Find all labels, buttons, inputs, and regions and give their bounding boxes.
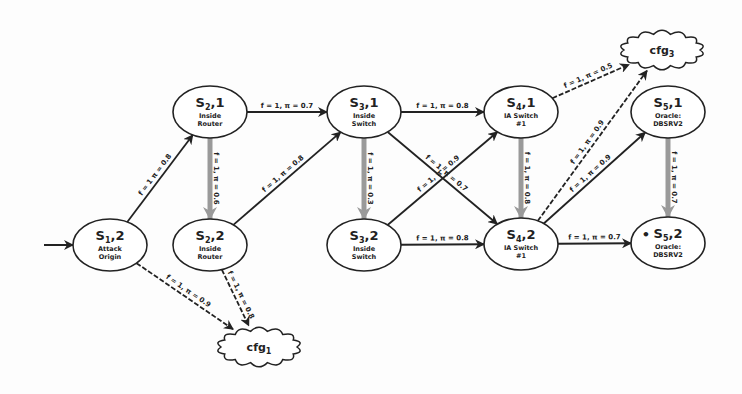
state-node-s3-1[interactable]: S3,1InsideSwitch xyxy=(327,86,401,138)
node-title: S5,1 xyxy=(654,95,683,112)
edge-S2_2-to-S3_1 xyxy=(233,132,340,225)
edge-label: f = 1, π = 0.8 xyxy=(261,154,306,194)
edge-label: f = 1, π = 0.7 xyxy=(424,153,469,193)
node-label-line1: Attack xyxy=(98,245,122,253)
edge-label: f = 1, π = 0.7 xyxy=(670,151,678,204)
node-label-line2: Switch xyxy=(352,253,377,261)
state-node-s2-1[interactable]: S2,1InsideRouter xyxy=(173,86,247,138)
node-label-line1: Inside xyxy=(353,245,376,253)
node-title: S5,2 xyxy=(654,226,683,243)
edge-S1_2-to-S2_1 xyxy=(127,135,192,222)
node-label-line2: #1 xyxy=(516,120,526,128)
edge-label: f = 1 π = 0.8 xyxy=(137,152,173,197)
graph-canvas: S1,2AttackOriginS2,1InsideRouterS2,2Insi… xyxy=(0,0,742,394)
node-label-line2: DBSRV2 xyxy=(653,120,683,128)
config-cloud-cfg3[interactable]: cfg3 xyxy=(621,30,703,70)
state-node-s1-2[interactable]: S1,2AttackOrigin xyxy=(73,219,147,271)
node-label-line1: Inside xyxy=(353,112,376,120)
edge-label: f = 1, π = 0.5 xyxy=(563,62,614,90)
node-title: S3,2 xyxy=(350,228,379,245)
node-title: S2,1 xyxy=(196,95,225,112)
state-node-s5-2[interactable]: S5,2Oracle:DBSRV2• xyxy=(631,217,705,269)
node-label-line1: IA Switch xyxy=(504,244,539,252)
node-label-line1: Inside xyxy=(199,245,222,253)
edge-label: f = 1, π = 0.3 xyxy=(366,152,374,205)
node-title: S1,2 xyxy=(96,228,125,245)
state-node-s4-1[interactable]: S4,1IA Switch#1 xyxy=(484,86,558,138)
edge-S3_2-to-S4_2 xyxy=(401,244,484,245)
node-title: S4,1 xyxy=(507,95,536,112)
edge-S4_2-to-S5_1 xyxy=(544,132,645,223)
edge-label: f = 1, π = 0.9 xyxy=(164,273,212,309)
node-title: S2,2 xyxy=(196,228,225,245)
node-marker-dot: • xyxy=(642,227,650,242)
edge-label: f = 1, π = 0.6 xyxy=(212,152,220,205)
node-label-line2: Switch xyxy=(352,120,377,128)
node-title: S4,2 xyxy=(507,227,536,244)
state-node-s2-2[interactable]: S2,2InsideRouter xyxy=(173,219,247,271)
node-label-line2: Router xyxy=(198,120,224,128)
config-cloud-cfg1[interactable]: cfg1 xyxy=(218,327,300,367)
edge-S1_2-to-cfg1 xyxy=(137,263,234,329)
edge-label: f = 1, π = 0.8 xyxy=(416,102,469,110)
edge-label: f = 1, π = 0.8 xyxy=(416,234,469,242)
edge-label: f = 1, π = 0.8 xyxy=(523,152,531,205)
node-label-line2: Origin xyxy=(99,253,122,261)
node-label-line1: Oracle: xyxy=(655,243,681,251)
attack-graph-diagram: S1,2AttackOriginS2,1InsideRouterS2,2Insi… xyxy=(0,0,742,394)
edge-label: f = 1, π = 0.7 xyxy=(568,233,621,241)
node-label-line1: Inside xyxy=(199,112,222,120)
edge-label: f = 1, π = 0.8 xyxy=(226,270,256,321)
nodes-layer: S1,2AttackOriginS2,1InsideRouterS2,2Insi… xyxy=(73,30,705,367)
state-node-s4-2[interactable]: S4,2IA Switch#1 xyxy=(484,218,558,270)
edge-label: f = 1, π = 0.7 xyxy=(261,102,314,110)
node-label-line2: Router xyxy=(198,253,224,261)
node-label-line2: DBSRV2 xyxy=(653,251,683,259)
node-label-line1: IA Switch xyxy=(504,112,539,120)
state-node-s3-2[interactable]: S3,2InsideSwitch xyxy=(327,219,401,271)
state-node-s5-1[interactable]: S5,1Oracle:DBSRV2 xyxy=(631,86,705,138)
node-title: S3,1 xyxy=(350,95,379,112)
node-label-line1: Oracle: xyxy=(655,112,681,120)
node-label-line2: #1 xyxy=(516,252,526,260)
